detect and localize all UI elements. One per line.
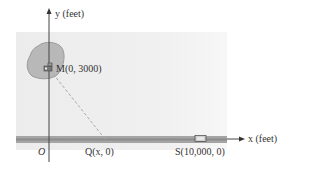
x-axis-label: x (feet) bbox=[248, 134, 277, 144]
point-s-label: S(10,000, 0) bbox=[175, 147, 225, 157]
building-icon bbox=[195, 136, 206, 142]
origin-label: O bbox=[38, 147, 45, 157]
point-m-label: M(0, 3000) bbox=[56, 64, 102, 74]
x-axis-arrow-icon bbox=[239, 137, 245, 142]
y-axis-arrow-icon bbox=[47, 8, 52, 14]
point-q-label: Q(x, 0) bbox=[85, 147, 114, 157]
y-axis-label: y (feet) bbox=[55, 9, 84, 19]
dashed-path-line bbox=[50, 70, 105, 139]
